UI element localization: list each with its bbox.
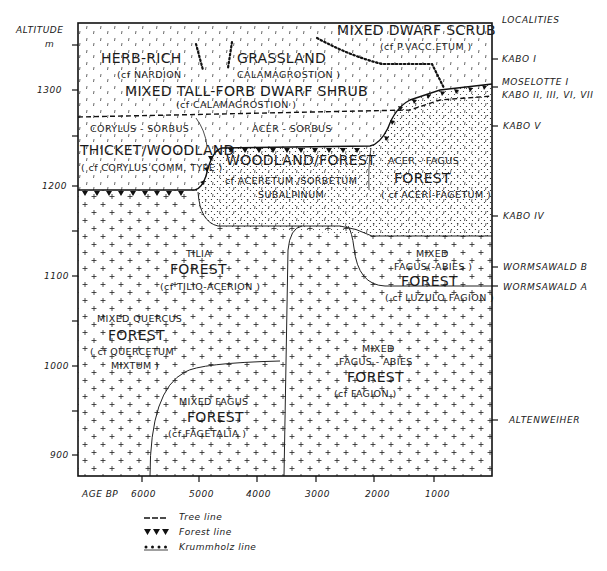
zone-fagus-abies-upper-title: FOREST (401, 274, 458, 288)
x-tick-label: 5000 (189, 490, 214, 499)
zone-tilia-ref: (cf TILIO-ACERION ) (160, 282, 260, 292)
zone-mixed-fagus-species: MIXED FAGUS (179, 397, 249, 407)
zone-grassland-title: GRASSLAND (237, 51, 326, 65)
zone-fagus-abies-upper-2: FAGUS(-ABIES ) (394, 262, 472, 272)
zone-mixed-fagus-ref: (cf FAGETALIA ) (168, 429, 246, 439)
triangle-line-icon (143, 528, 169, 536)
locality-label: MOSELOTTE I (502, 78, 569, 87)
localities-title: LOCALITIES (502, 16, 559, 25)
zone-fagus-abies-upper-1: MIXED (416, 249, 449, 259)
zone-quercus-ref: ( cf QUERCETUM (90, 347, 174, 357)
y-tick-label: 1000 (44, 362, 69, 371)
x-tick-label: 3000 (305, 490, 330, 499)
y-tick-label: 1100 (44, 272, 69, 281)
zone-acer-fagus-species: ACER - FAGUS (388, 156, 459, 166)
zone-fagus-abies-lower-ref: (cf FAGION ) (334, 389, 397, 399)
legend-label: Tree line (179, 512, 222, 522)
zone-tilia-species: TILIA (186, 249, 211, 259)
locality-label: WORMSAWALD B (503, 263, 588, 272)
zone-acer-sorbus-title: WOODLAND/FOREST (226, 153, 376, 167)
x-axis-title: AGE BP (82, 490, 118, 499)
zone-mixed-fagus-title: FOREST (187, 410, 244, 424)
locality-label: WORMSAWALD A (503, 283, 587, 292)
zone-dwarf-scrub-ref: (cf P.VACC.ETUM ) (380, 42, 472, 52)
locality-label: KABO II, III, VI, VII (502, 91, 594, 100)
y-tick-label: 1300 (37, 86, 62, 95)
zone-fagus-abies-lower-1: MIXED (362, 344, 395, 354)
legend-item-krummholz-line: Krummholz line (143, 542, 256, 552)
zone-herb-rich-title: HERB-RICH (101, 51, 182, 65)
zone-corylus-title: THICKET/WOODLAND (80, 143, 235, 157)
zone-grassland-ref: CALAMAGROSTION ) (237, 70, 340, 80)
legend-item-forest-line: Forest line (143, 527, 232, 537)
zone-acer-sorbus-ref: cf ACERETUM /SORBETUM (225, 176, 357, 186)
locality-label: KABO IV (503, 212, 544, 221)
zone-fagus-abies-upper-ref: ( cf LUZULO FAGION ) (385, 293, 494, 303)
zone-acer-fagus-title: FOREST (394, 171, 451, 185)
y-axis-title: ALTITUDE (16, 26, 63, 35)
zone-acer-fagus-ref: ( cf ACERI-FAGETUM ) (381, 190, 491, 200)
x-tick-label: 2000 (365, 490, 390, 499)
y-tick-label: 900 (50, 451, 69, 460)
dotted-line-icon (143, 543, 169, 551)
y-axis-unit: m (45, 40, 54, 49)
x-tick-label: 6000 (131, 490, 156, 499)
zone-quercus-species: MIXED QUERCUS (97, 314, 182, 324)
x-tick-label: 4000 (246, 490, 271, 499)
zone-fagus-abies-lower-title: FOREST (347, 370, 404, 384)
zone-tilia-title: FOREST (170, 262, 227, 276)
zone-herb-rich-ref: (cf NARDION (117, 70, 182, 80)
zone-acer-sorbus-species: ACER - SORBUS (252, 124, 332, 134)
zone-acer-sorbus-ref2: SUBALPINUM (258, 190, 324, 200)
locality-label: KABO V (503, 122, 541, 131)
y-tick-label: 1200 (42, 182, 67, 191)
legend-item-tree-line: Tree line (143, 512, 222, 522)
dashed-line-icon (143, 513, 169, 521)
zone-quercus-title: FOREST (108, 328, 165, 342)
zone-tall-forb-ref: (cf CALAMAGROSTION ) (176, 100, 296, 110)
zone-corylus-ref: ( cf CORYLUS COMM. TYPE ) (81, 163, 223, 173)
legend-label: Forest line (179, 527, 232, 537)
vegetation-altitude-diagram: ALTITUDE m 1300 1200 1100 1000 900 AGE B… (0, 0, 607, 571)
locality-label: KABO I (502, 55, 536, 64)
legend-label: Krummholz line (179, 542, 256, 552)
zone-corylus-species: CORYLUS - SORBUS (90, 124, 189, 134)
zone-quercus-ref2: MIXTUM ) (111, 361, 159, 371)
zone-dwarf-scrub-title: MIXED DWARF SCRUB (337, 23, 496, 37)
zone-fagus-abies-lower-2: FAGUS - ABIES (339, 357, 413, 367)
zone-tall-forb-title: MIXED TALL-FORB DWARF SHRUB (125, 84, 368, 98)
locality-label: ALTENWEIHER (509, 416, 580, 425)
x-tick-label: 1000 (425, 490, 450, 499)
